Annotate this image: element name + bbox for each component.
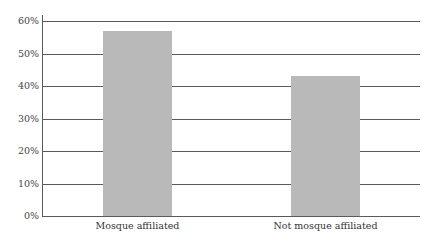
gridline [42,54,420,55]
gridline [42,184,420,185]
y-tick-label: 20% [18,146,39,156]
bar [291,76,360,216]
gridline [42,151,420,152]
y-tick-label: 50% [18,49,39,59]
x-category-label: Mosque affiliated [58,220,218,231]
y-tick-label: 40% [18,81,39,91]
y-tick-label: 0% [24,211,39,221]
y-tick-label: 30% [18,114,39,124]
gridline [42,216,420,217]
gridline [42,86,420,87]
gridline [42,119,420,120]
bar-chart: 0%10%20%30%40%50%60% Mosque affiliatedNo… [0,0,436,241]
y-tick-label: 10% [18,179,39,189]
gridline [42,21,420,22]
bar [103,31,172,216]
x-category-label: Not mosque affiliated [246,220,406,231]
y-tick-label: 60% [18,16,39,26]
y-axis-line [42,15,43,217]
